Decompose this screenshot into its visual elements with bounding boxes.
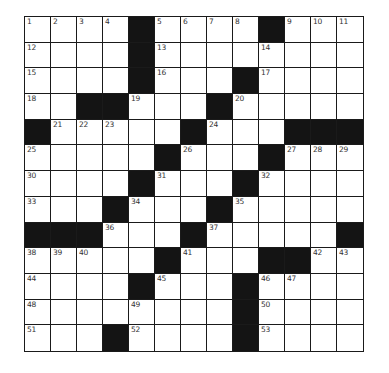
crossword-cell[interactable]: [181, 300, 207, 326]
crossword-cell[interactable]: 15: [25, 68, 51, 94]
crossword-cell[interactable]: 27: [285, 145, 311, 171]
crossword-cell[interactable]: [285, 94, 311, 120]
crossword-cell[interactable]: [181, 274, 207, 300]
crossword-cell[interactable]: [155, 223, 181, 249]
crossword-cell[interactable]: 23: [103, 120, 129, 146]
crossword-cell[interactable]: 40: [77, 248, 103, 274]
crossword-cell[interactable]: 21: [51, 120, 77, 146]
crossword-cell[interactable]: 32: [259, 171, 285, 197]
crossword-cell[interactable]: 24: [207, 120, 233, 146]
crossword-cell[interactable]: 48: [25, 300, 51, 326]
crossword-cell[interactable]: 53: [259, 325, 285, 351]
crossword-cell[interactable]: [103, 300, 129, 326]
crossword-cell[interactable]: [233, 120, 259, 146]
crossword-cell[interactable]: [77, 43, 103, 69]
crossword-cell[interactable]: 10: [311, 17, 337, 43]
crossword-cell[interactable]: [103, 171, 129, 197]
crossword-cell[interactable]: 5: [155, 17, 181, 43]
crossword-cell[interactable]: [51, 197, 77, 223]
crossword-cell[interactable]: 26: [181, 145, 207, 171]
crossword-cell[interactable]: [311, 43, 337, 69]
crossword-cell[interactable]: [155, 120, 181, 146]
crossword-cell[interactable]: [311, 325, 337, 351]
crossword-cell[interactable]: [337, 94, 363, 120]
crossword-cell[interactable]: [103, 145, 129, 171]
crossword-cell[interactable]: [285, 325, 311, 351]
crossword-cell[interactable]: [155, 325, 181, 351]
crossword-cell[interactable]: [181, 68, 207, 94]
crossword-cell[interactable]: 45: [155, 274, 181, 300]
crossword-cell[interactable]: [51, 325, 77, 351]
crossword-cell[interactable]: 18: [25, 94, 51, 120]
crossword-cell[interactable]: [259, 197, 285, 223]
crossword-cell[interactable]: [311, 68, 337, 94]
crossword-cell[interactable]: [181, 197, 207, 223]
crossword-cell[interactable]: 46: [259, 274, 285, 300]
crossword-cell[interactable]: [207, 248, 233, 274]
crossword-cell[interactable]: 38: [25, 248, 51, 274]
crossword-cell[interactable]: 30: [25, 171, 51, 197]
crossword-cell[interactable]: [77, 197, 103, 223]
crossword-cell[interactable]: [103, 248, 129, 274]
crossword-cell[interactable]: [259, 120, 285, 146]
crossword-cell[interactable]: [207, 274, 233, 300]
crossword-cell[interactable]: 29: [337, 145, 363, 171]
crossword-cell[interactable]: [233, 223, 259, 249]
crossword-cell[interactable]: [129, 223, 155, 249]
crossword-cell[interactable]: [233, 248, 259, 274]
crossword-cell[interactable]: 22: [77, 120, 103, 146]
crossword-cell[interactable]: 50: [259, 300, 285, 326]
crossword-cell[interactable]: 36: [103, 223, 129, 249]
crossword-cell[interactable]: [77, 145, 103, 171]
crossword-cell[interactable]: [207, 300, 233, 326]
crossword-cell[interactable]: [155, 94, 181, 120]
crossword-cell[interactable]: 41: [181, 248, 207, 274]
crossword-cell[interactable]: [129, 120, 155, 146]
crossword-cell[interactable]: [259, 223, 285, 249]
crossword-cell[interactable]: 16: [155, 68, 181, 94]
crossword-cell[interactable]: [181, 171, 207, 197]
crossword-cell[interactable]: [77, 171, 103, 197]
crossword-cell[interactable]: [233, 145, 259, 171]
crossword-cell[interactable]: [51, 145, 77, 171]
crossword-cell[interactable]: 1: [25, 17, 51, 43]
crossword-cell[interactable]: 51: [25, 325, 51, 351]
crossword-cell[interactable]: 4: [103, 17, 129, 43]
crossword-cell[interactable]: [103, 43, 129, 69]
crossword-cell[interactable]: 42: [311, 248, 337, 274]
crossword-cell[interactable]: [285, 197, 311, 223]
crossword-cell[interactable]: 34: [129, 197, 155, 223]
crossword-cell[interactable]: [129, 248, 155, 274]
crossword-cell[interactable]: [51, 300, 77, 326]
crossword-cell[interactable]: [337, 274, 363, 300]
crossword-cell[interactable]: 6: [181, 17, 207, 43]
crossword-cell[interactable]: [285, 171, 311, 197]
crossword-cell[interactable]: [337, 325, 363, 351]
crossword-cell[interactable]: [285, 300, 311, 326]
crossword-cell[interactable]: 11: [337, 17, 363, 43]
crossword-cell[interactable]: [337, 300, 363, 326]
crossword-cell[interactable]: [233, 43, 259, 69]
crossword-cell[interactable]: [207, 43, 233, 69]
crossword-cell[interactable]: [337, 43, 363, 69]
crossword-cell[interactable]: [77, 300, 103, 326]
crossword-cell[interactable]: 52: [129, 325, 155, 351]
crossword-cell[interactable]: [285, 223, 311, 249]
crossword-cell[interactable]: [337, 171, 363, 197]
crossword-cell[interactable]: 35: [233, 197, 259, 223]
crossword-cell[interactable]: 39: [51, 248, 77, 274]
crossword-cell[interactable]: [311, 223, 337, 249]
crossword-cell[interactable]: [311, 94, 337, 120]
crossword-cell[interactable]: [285, 68, 311, 94]
crossword-cell[interactable]: [337, 68, 363, 94]
crossword-cell[interactable]: [77, 325, 103, 351]
crossword-cell[interactable]: 12: [25, 43, 51, 69]
crossword-cell[interactable]: 37: [207, 223, 233, 249]
crossword-cell[interactable]: [207, 325, 233, 351]
crossword-cell[interactable]: 9: [285, 17, 311, 43]
crossword-cell[interactable]: [181, 94, 207, 120]
crossword-cell[interactable]: [259, 94, 285, 120]
crossword-cell[interactable]: [311, 274, 337, 300]
crossword-cell[interactable]: 17: [259, 68, 285, 94]
crossword-cell[interactable]: [155, 197, 181, 223]
